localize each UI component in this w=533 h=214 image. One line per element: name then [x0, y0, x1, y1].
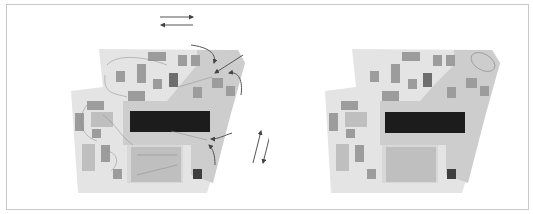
plain-plan-drawing: [270, 5, 530, 211]
dark-block-south: [193, 169, 202, 179]
central-block: [385, 112, 465, 133]
annotated-site-plan: [7, 5, 269, 211]
diagram-frame: [6, 4, 529, 210]
dark-block-south: [447, 169, 456, 179]
plain-site-plan: [270, 5, 530, 211]
diagonal-flow-arrows: [253, 131, 269, 163]
dark-block: [423, 73, 432, 87]
dark-block: [169, 73, 178, 87]
central-block: [130, 111, 210, 132]
horizontal-flow-arrows: [160, 17, 193, 25]
annotated-plan-drawing: [7, 5, 269, 211]
